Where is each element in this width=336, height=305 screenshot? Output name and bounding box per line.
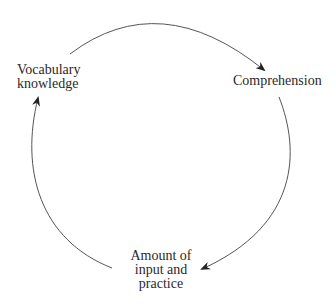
arrow-vocab-to-comprehension <box>70 24 264 70</box>
node-comprehension: Comprehension <box>233 74 322 88</box>
arrow-amount-to-vocab <box>32 98 112 268</box>
node-label-line: Amount of <box>116 249 206 263</box>
node-label-line: practice <box>116 277 206 291</box>
node-label-line: knowledge <box>17 77 81 91</box>
arrow-comprehension-to-amount <box>202 97 290 269</box>
node-label-line: Vocabulary <box>17 63 81 77</box>
cycle-diagram: Vocabulary knowledge Comprehension Amoun… <box>0 0 336 305</box>
node-vocabulary-knowledge: Vocabulary knowledge <box>17 63 81 91</box>
node-label-line: Comprehension <box>233 74 322 88</box>
node-amount-of-input-and-practice: Amount of input and practice <box>116 249 206 291</box>
node-label-line: input and <box>116 263 206 277</box>
